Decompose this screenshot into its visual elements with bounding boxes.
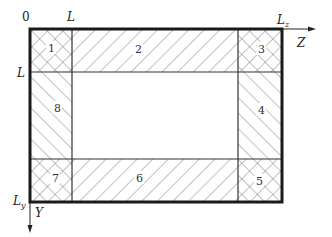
pml-domain-diagram: 0 L Lz Z L Ly Y 1 2 3 4 5 6 7 8 <box>0 0 332 237</box>
region-7-label: 7 <box>52 172 59 185</box>
z-arrow-icon <box>308 27 316 32</box>
y-axis <box>28 202 33 233</box>
region-5-label: 5 <box>256 175 263 188</box>
region-1-label: 1 <box>48 42 55 55</box>
region-8 <box>30 72 72 159</box>
y-arrow-icon <box>28 225 33 233</box>
left-tick-Ly-label: Ly <box>12 194 26 210</box>
region-2 <box>72 29 238 72</box>
z-axis-label: Z <box>296 36 306 50</box>
top-tick-L-label: L <box>66 10 75 24</box>
origin-label: 0 <box>22 10 30 24</box>
left-tick-L-label: L <box>16 66 25 80</box>
region-3-label: 3 <box>258 43 265 56</box>
region-4-label: 4 <box>258 104 265 117</box>
region-8-label: 8 <box>54 102 61 115</box>
region-6 <box>72 159 238 202</box>
top-tick-Lz-label: Lz <box>276 13 290 29</box>
interior-region <box>72 72 238 159</box>
y-axis-label: Y <box>35 206 44 220</box>
region-6-label: 6 <box>136 172 143 185</box>
region-2-label: 2 <box>135 43 142 56</box>
